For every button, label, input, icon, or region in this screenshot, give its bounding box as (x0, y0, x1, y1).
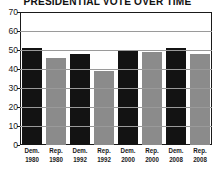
y-axis-tick-label: 50 (0, 46, 18, 55)
x-label-party: Dem. (72, 147, 87, 154)
x-label-year: 1992 (93, 156, 116, 165)
bar-rep-1980[interactable] (46, 58, 65, 145)
gridline (20, 50, 212, 51)
x-label-year: 2000 (117, 156, 140, 165)
x-label-year: 2008 (189, 156, 212, 165)
bar-dem-2008[interactable] (166, 48, 185, 145)
presidential-vote-bar-chart: PRESIDENTIAL VOTE OVER TIME 010203040506… (0, 0, 215, 171)
y-axis-tick-mark (17, 145, 20, 146)
chart-title: PRESIDENTIAL VOTE OVER TIME (9, 0, 207, 7)
y-axis-tick-label: 10 (0, 122, 18, 131)
gridline (20, 88, 212, 89)
bar-rep-2008[interactable] (190, 54, 209, 145)
x-label-party: Dem. (120, 147, 135, 154)
x-axis-label-rep-1980: Rep.1980 (45, 147, 68, 164)
x-label-year: 1980 (21, 156, 44, 165)
bar-dem-1992[interactable] (70, 54, 89, 145)
x-axis-label-rep-1992: Rep.1992 (93, 147, 116, 164)
x-axis-label-rep-2000: Rep.2000 (141, 147, 164, 164)
y-axis-tick-label: 70 (0, 8, 18, 17)
x-axis-label-rep-2008: Rep.2008 (189, 147, 212, 164)
x-label-year: 1992 (69, 156, 92, 165)
gridline (20, 31, 212, 32)
x-axis-label-dem-1980: Dem.1980 (21, 147, 44, 164)
y-axis-tick-label: 30 (0, 84, 18, 93)
x-axis-labels: Dem.1980Rep.1980Dem.1992Rep.1992Dem.2000… (20, 147, 212, 171)
plot-area (20, 12, 212, 145)
gridline (20, 126, 212, 127)
y-axis-tick-label: 0 (0, 141, 18, 150)
y-axis: 010203040506070 (0, 0, 20, 171)
x-axis-label-dem-2008: Dem.2008 (165, 147, 188, 164)
y-axis-tick-label: 20 (0, 103, 18, 112)
x-label-party: Rep. (145, 147, 158, 154)
x-label-party: Rep. (97, 147, 110, 154)
y-axis-tick-label: 40 (0, 65, 18, 74)
x-label-year: 2008 (165, 156, 188, 165)
x-label-party: Rep. (49, 147, 62, 154)
x-label-party: Dem. (24, 147, 39, 154)
x-label-party: Rep. (193, 147, 206, 154)
x-axis-label-dem-2000: Dem.2000 (117, 147, 140, 164)
y-axis-tick-label: 60 (0, 27, 18, 36)
bar-dem-1980[interactable] (22, 48, 41, 145)
x-axis-label-dem-1992: Dem.1992 (69, 147, 92, 164)
gridline (20, 107, 212, 108)
x-label-year: 1980 (45, 156, 68, 165)
x-label-year: 2000 (141, 156, 164, 165)
x-label-party: Dem. (168, 147, 183, 154)
bar-rep-2000[interactable] (142, 52, 161, 145)
gridline (20, 69, 212, 70)
bar-dem-2000[interactable] (118, 50, 137, 145)
